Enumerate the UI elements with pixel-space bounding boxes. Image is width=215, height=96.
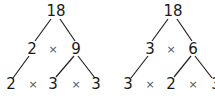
multiply-sign: × xyxy=(28,78,37,91)
prime-factor: 3 xyxy=(211,75,215,93)
prime-factor: 3 xyxy=(123,75,133,93)
prime-factor: 2 xyxy=(6,75,16,93)
multiply-sign: × xyxy=(145,78,154,91)
factor: 2 xyxy=(27,40,37,58)
root-number: 18 xyxy=(163,2,182,20)
branch xyxy=(177,19,192,41)
multiply-sign: × xyxy=(166,43,175,56)
prime-factor: 3 xyxy=(48,75,58,93)
prime-factor: 2 xyxy=(166,75,176,93)
branch xyxy=(174,56,191,77)
factor: 9 xyxy=(71,40,81,58)
factor-trees-diagram: 18 2 × 9 2 × 3 × 3 18 3 × 6 3 × 2 × 3 xyxy=(0,0,215,96)
factor: 3 xyxy=(145,40,155,58)
branch xyxy=(60,19,75,41)
root-number: 18 xyxy=(46,2,65,20)
branch xyxy=(131,56,148,78)
branch xyxy=(35,19,51,41)
factor-tree-1: 18 2 × 9 2 × 3 × 3 xyxy=(6,2,101,93)
multiply-sign: × xyxy=(48,43,57,56)
multiply-sign: × xyxy=(71,78,80,91)
prime-factor: 3 xyxy=(91,75,101,93)
branch xyxy=(152,19,168,41)
multiply-sign: × xyxy=(188,78,197,91)
factor: 6 xyxy=(188,40,198,58)
branch xyxy=(56,56,74,77)
branch xyxy=(195,56,212,78)
factor-tree-2: 18 3 × 6 3 × 2 × 3 xyxy=(123,2,215,93)
